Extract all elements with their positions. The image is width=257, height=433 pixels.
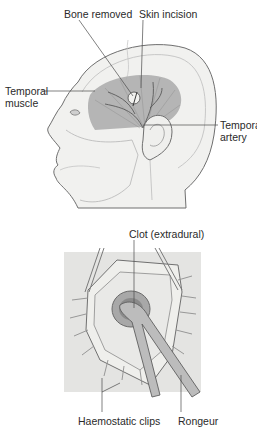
label-temporal-muscle-2: muscle [5,97,38,109]
burr-hole-illustration [64,248,201,397]
label-temporal-artery-2: artery [220,131,247,143]
label-rongeur: Rongeur [178,415,218,427]
label-temporal-artery-1: Temporal [220,119,257,131]
label-bone-removed: Bone removed [64,8,132,20]
label-clot-extradural: Clot (extradural) [129,228,204,240]
head-illustration [48,40,217,208]
label-temporal-muscle-1: Temporal [5,85,48,97]
label-haemostatic-clips: Haemostatic clips [78,415,160,427]
label-skin-incision: Skin incision [139,8,197,20]
diagram-canvas [0,0,257,433]
